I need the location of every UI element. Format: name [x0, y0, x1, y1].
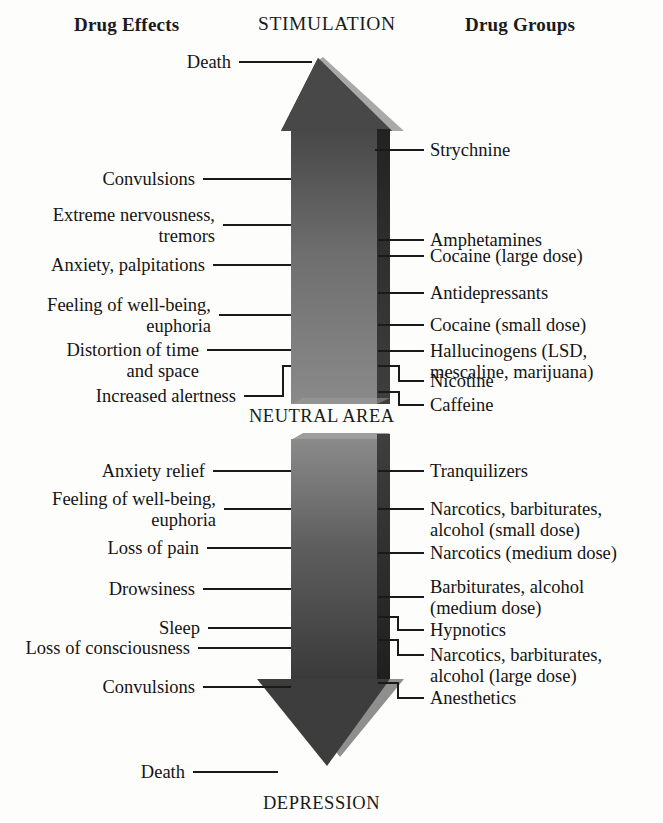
label-line-0: Antidepressants [430, 283, 548, 304]
label-line-1: euphoria [52, 510, 216, 531]
label-line-0: Anesthetics [430, 688, 516, 709]
group-label-narcotics-small: Narcotics, barbiturates,alcohol (small d… [430, 499, 602, 540]
effect-label-loss-of-pain: Loss of pain [108, 538, 199, 559]
label-line-0: Drowsiness [109, 579, 195, 600]
effect-label-convulsions-bottom: Convulsions [102, 677, 195, 698]
stimulation-arrow [281, 57, 404, 404]
label-line-1: euphoria [47, 316, 211, 337]
label-line-0: Sleep [159, 618, 200, 639]
label-line-0: Anxiety relief [102, 461, 205, 482]
label-line-0: Convulsions [102, 677, 195, 698]
label-line-0: Feeling of well-being, [52, 489, 216, 510]
group-label-antidepressants: Antidepressants [430, 283, 548, 304]
effect-label-distortion: Distortion of timeand space [66, 340, 199, 381]
effect-label-anxiety-palpitations: Anxiety, palpitations [51, 255, 205, 276]
label-line-0: Death [141, 762, 185, 783]
label-line-0: Cocaine (large dose) [430, 246, 583, 267]
effect-label-convulsions-top: Convulsions [102, 169, 195, 190]
label-line-0: Barbiturates, alcohol [430, 577, 584, 598]
arrow-down-top-cap [291, 433, 390, 440]
group-label-nicotine: Nicotine [430, 371, 494, 392]
label-line-0: Narcotics, barbiturates, [430, 645, 602, 666]
diagram-page: Drug Effects STIMULATION Drug Groups NEU… [0, 0, 663, 823]
label-line-0: Convulsions [102, 169, 195, 190]
depression-arrow [257, 433, 404, 766]
group-label-anesthetics: Anesthetics [430, 688, 516, 709]
label-line-1: alcohol (large dose) [430, 666, 602, 687]
effect-label-wellbeing-top: Feeling of well-being,euphoria [47, 295, 211, 336]
label-line-0: Distortion of time [66, 340, 199, 361]
group-label-narcotics-medium: Narcotics (medium dose) [430, 543, 617, 564]
label-line-0: Loss of pain [108, 538, 199, 559]
axis-label-depression: DEPRESSION [263, 793, 380, 814]
label-line-1: alcohol (small dose) [430, 520, 602, 541]
group-label-strychnine: Strychnine [430, 140, 510, 161]
group-label-cocaine-large: Cocaine (large dose) [430, 246, 583, 267]
effect-label-increased-alertness: Increased alertness [96, 386, 236, 407]
column-header-drug-groups: Drug Groups [465, 14, 575, 36]
leader-increased-alertness [244, 366, 291, 396]
group-label-barbiturates-med: Barbiturates, alcohol(medium dose) [430, 577, 584, 618]
effect-label-loss-consciousness: Loss of consciousness [26, 638, 190, 659]
label-line-0: Narcotics (medium dose) [430, 543, 617, 564]
group-label-hypnotics: Hypnotics [430, 620, 506, 641]
axis-label-stimulation: STIMULATION [258, 13, 396, 35]
label-line-0: Nicotine [430, 371, 494, 392]
arrow-up-shaft [291, 129, 377, 404]
group-label-narcotics-large: Narcotics, barbiturates,alcohol (large d… [430, 645, 602, 686]
label-line-0: Narcotics, barbiturates, [430, 499, 602, 520]
effect-label-extreme-nervousness: Extreme nervousness,tremors [53, 205, 215, 246]
effect-label-death-bottom: Death [141, 762, 185, 783]
label-line-0: Loss of consciousness [26, 638, 190, 659]
axis-label-neutral-area: NEUTRAL AREA [249, 406, 395, 427]
arrow-up-head-face [281, 58, 392, 131]
arrow-down-shaft [291, 439, 377, 679]
column-header-drug-effects: Drug Effects [74, 14, 179, 36]
arrow-up-shaft-edge [377, 129, 390, 404]
label-line-0: Tranquilizers [430, 461, 528, 482]
group-label-cocaine-small: Cocaine (small dose) [430, 315, 586, 336]
label-line-0: Increased alertness [96, 386, 236, 407]
label-line-1: and space [66, 361, 199, 382]
group-label-caffeine: Caffeine [430, 395, 493, 416]
label-line-0: Strychnine [430, 140, 510, 161]
effect-label-death-top: Death [187, 52, 231, 73]
arrow-up-base-cap [291, 398, 390, 404]
group-label-tranquilizers: Tranquilizers [430, 461, 528, 482]
arrow-down-head [257, 679, 390, 766]
label-line-0: Hypnotics [430, 620, 506, 641]
label-line-0: Hallucinogens (LSD, [430, 341, 593, 362]
label-line-0: Extreme nervousness, [53, 205, 215, 226]
label-line-0: Cocaine (small dose) [430, 315, 586, 336]
label-line-0: Death [187, 52, 231, 73]
effect-label-wellbeing-bottom: Feeling of well-being,euphoria [52, 489, 216, 530]
label-line-1: tremors [53, 226, 215, 247]
label-line-1: (medium dose) [430, 598, 584, 619]
effect-label-anxiety-relief: Anxiety relief [102, 461, 205, 482]
label-line-0: Anxiety, palpitations [51, 255, 205, 276]
effect-label-drowsiness: Drowsiness [109, 579, 195, 600]
label-line-0: Caffeine [430, 395, 493, 416]
effect-label-sleep: Sleep [159, 618, 200, 639]
label-line-0: Feeling of well-being, [47, 295, 211, 316]
